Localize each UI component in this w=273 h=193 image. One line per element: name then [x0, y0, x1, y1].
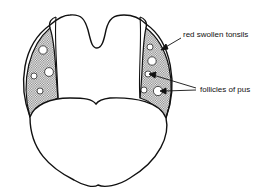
label-follicles-of-pus: follicles of pus: [200, 86, 250, 94]
tongue: [30, 98, 167, 187]
label-red-swollen-tonsils: red swollen tonsils: [183, 31, 248, 39]
throat-diagram: [0, 0, 273, 193]
